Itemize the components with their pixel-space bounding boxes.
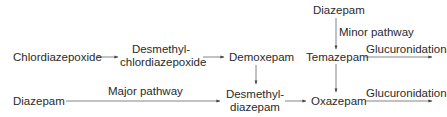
node-desmethyldiazepam-line2: diazepam [224,101,286,114]
metabolism-diagram: Chlordiazepoxide Desmethyl- chlordiazepo… [0,0,447,117]
node-chlordiazepoxide: Chlordiazepoxide [13,51,102,64]
node-demoxepam: Demoxepam [229,51,294,64]
node-desmethyldiazepam: Desmethyl- diazepam [224,88,286,114]
node-desmethyldiazepam-line1: Desmethyl- [224,88,286,101]
node-desmethylchlordiazepoxide-line2: chlordiazepoxide [120,56,202,69]
node-temazepam: Temazepam [306,51,369,64]
edge-label-minor-pathway: Minor pathway [339,26,414,39]
node-diazepam-bottom: Diazepam [13,95,65,108]
node-oxazepam: Oxazepam [311,95,367,108]
node-desmethylchlordiazepoxide: Desmethyl- chlordiazepoxide [120,43,202,69]
edge-label-major-pathway: Major pathway [108,85,183,98]
edge-label-glucuronidation-temazepam: Glucuronidation [366,43,447,56]
edge-label-glucuronidation-oxazepam: Glucuronidation [366,87,447,100]
node-desmethylchlordiazepoxide-line1: Desmethyl- [120,43,202,56]
node-diazepam-top: Diazepam [313,4,365,17]
